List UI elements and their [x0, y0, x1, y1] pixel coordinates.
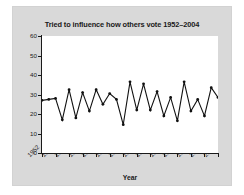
data-series-line [42, 36, 218, 153]
data-point [42, 99, 43, 102]
y-tick-mark [38, 134, 41, 135]
data-point [210, 86, 213, 89]
data-point [149, 109, 152, 112]
y-tick-label: 30 [30, 91, 37, 98]
y-tick-mark [38, 95, 41, 96]
data-point [129, 80, 132, 83]
data-point [183, 80, 186, 83]
data-point [196, 98, 199, 101]
chart-card: Tried to influence how others vote 1952–… [12, 6, 232, 186]
x-axis-label: Year [41, 174, 219, 181]
data-point [190, 110, 193, 113]
data-point [68, 88, 71, 91]
y-tick-label: 20 [30, 110, 37, 117]
series-polyline [42, 82, 218, 125]
y-tick-mark [38, 36, 41, 37]
data-point [142, 82, 145, 85]
data-point [88, 110, 91, 113]
plot-area [42, 36, 218, 153]
data-point [162, 115, 165, 118]
x-tick-mark [218, 154, 219, 157]
data-point [54, 97, 57, 100]
y-tick-label: 60 [30, 32, 37, 39]
data-point [108, 92, 111, 95]
data-point [74, 117, 77, 120]
data-point [102, 103, 105, 106]
data-point [81, 91, 84, 94]
data-point [47, 98, 50, 101]
y-tick-mark [38, 114, 41, 115]
y-tick-mark [38, 56, 41, 57]
series-markers [42, 80, 218, 126]
chart-title: Tried to influence how others vote 1952–… [12, 20, 232, 29]
data-point [176, 119, 179, 122]
data-point [115, 98, 118, 101]
y-tick-label: 50 [30, 52, 37, 59]
data-point [156, 90, 159, 93]
data-point [95, 88, 98, 91]
chart-figure: Tried to influence how others vote 1952–… [0, 0, 244, 195]
data-point [61, 118, 64, 121]
data-point [122, 123, 125, 126]
y-tick-label: 10 [30, 130, 37, 137]
y-tick-mark [38, 75, 41, 76]
y-tick-label: 40 [30, 71, 37, 78]
data-point [203, 115, 206, 118]
data-point [135, 109, 138, 112]
data-point [169, 96, 172, 99]
